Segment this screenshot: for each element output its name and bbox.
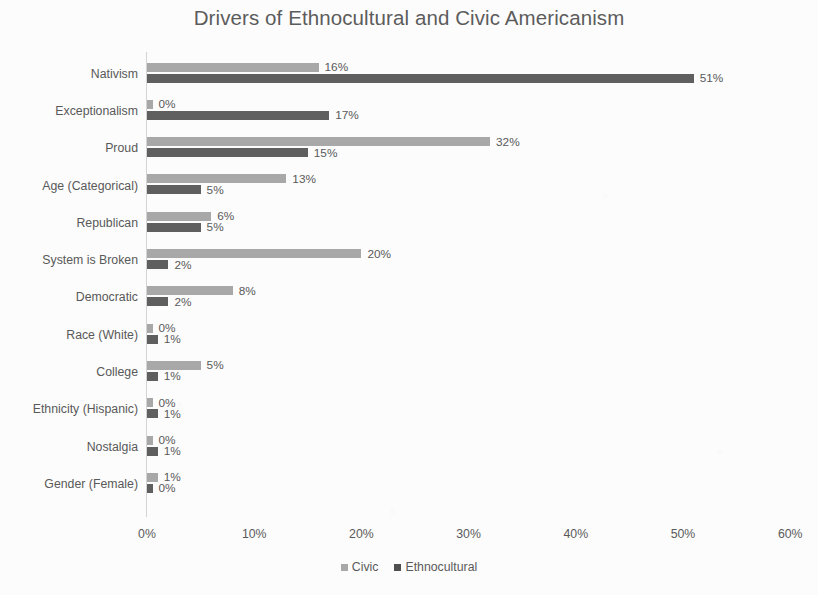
bar-track-civic: 13% (147, 174, 818, 183)
legend-label: Ethnocultural (405, 560, 477, 574)
bar-value-label: 1% (158, 369, 181, 383)
bar-value-label: 20% (361, 247, 391, 261)
bar-value-label: 32% (490, 135, 520, 149)
category-row: System is Broken20%2% (0, 242, 818, 279)
chart-title: Drivers of Ethnocultural and Civic Ameri… (0, 6, 818, 30)
bar-track-civic: 32% (147, 137, 818, 146)
bar-track-civic: 0% (147, 436, 818, 445)
category-label: Republican (76, 216, 138, 230)
x-axis-tick-label: 50% (671, 527, 696, 541)
bar-ethno (147, 447, 158, 456)
x-axis-tick-label: 20% (349, 527, 374, 541)
category-row: Race (White)0%1% (0, 316, 818, 353)
x-axis-tick-label: 40% (563, 527, 588, 541)
bar-ethno (147, 185, 201, 194)
category-row: Democratic8%2% (0, 279, 818, 316)
bar-group: 13%5% (147, 167, 818, 204)
bar-track-ethno: 2% (147, 260, 818, 269)
bar-civic (147, 63, 319, 72)
x-axis-tick-label: 60% (778, 527, 803, 541)
bar-value-label: 1% (158, 332, 181, 346)
bar-group: 32%15% (147, 130, 818, 167)
bar-track-ethno: 1% (147, 447, 818, 456)
bar-group: 20%2% (147, 242, 818, 279)
x-axis: 0%10%20%30%40%50%60% (0, 517, 818, 547)
category-label: Ethnicity (Hispanic) (33, 402, 138, 416)
category-row: Republican6%5% (0, 204, 818, 241)
bar-track-ethno: 1% (147, 372, 818, 381)
bar-group: 0%1% (147, 316, 818, 353)
bar-value-label: 8% (233, 284, 256, 298)
legend-swatch-ethno-icon (394, 564, 401, 571)
plot-area: Nativism16%51%Exceptionalism0%17%Proud32… (0, 52, 818, 517)
category-row: Gender (Female)1%0% (0, 465, 818, 502)
bar-value-label: 1% (158, 407, 181, 421)
legend-entry-ethno[interactable]: Ethnocultural (394, 560, 477, 574)
bar-ethno (147, 74, 694, 83)
bar-track-ethno: 1% (147, 409, 818, 418)
bar-value-label: 5% (201, 358, 224, 372)
category-row: Exceptionalism0%17% (0, 92, 818, 129)
category-label: Nostalgia (87, 440, 138, 454)
category-label: Exceptionalism (55, 104, 138, 118)
bar-ethno (147, 335, 158, 344)
bar-group: 0%1% (147, 428, 818, 465)
x-axis-tick-label: 0% (138, 527, 156, 541)
bar-ethno (147, 148, 308, 157)
bar-ethno (147, 297, 168, 306)
bar-group: 16%51% (147, 55, 818, 92)
x-axis-tick-label: 30% (456, 527, 481, 541)
bar-track-ethno: 15% (147, 148, 818, 157)
category-label: Gender (Female) (44, 477, 138, 491)
bar-track-civic: 20% (147, 249, 818, 258)
bar-value-label: 2% (168, 258, 191, 272)
category-row: Age (Categorical)13%5% (0, 167, 818, 204)
bar-ethno (147, 409, 158, 418)
bar-value-label: 2% (168, 295, 191, 309)
x-axis-tick-label: 10% (242, 527, 267, 541)
bar-track-ethno: 1% (147, 335, 818, 344)
bar-track-civic: 5% (147, 361, 818, 370)
legend-label: Civic (352, 560, 379, 574)
category-label: Age (Categorical) (42, 179, 138, 193)
bar-track-ethno: 17% (147, 111, 818, 120)
category-row: Nativism16%51% (0, 55, 818, 92)
bar-track-ethno: 51% (147, 74, 818, 83)
bar-ethno (147, 372, 158, 381)
bar-group: 5%1% (147, 353, 818, 390)
bar-track-ethno: 0% (147, 484, 818, 493)
bar-track-ethno: 5% (147, 223, 818, 232)
legend-entry-civic[interactable]: Civic (341, 560, 379, 574)
bar-group: 1%0% (147, 465, 818, 502)
category-label: Race (White) (66, 328, 138, 342)
bar-track-ethno: 5% (147, 185, 818, 194)
bar-group: 0%1% (147, 391, 818, 428)
bar-value-label: 5% (201, 220, 224, 234)
category-label: System is Broken (42, 253, 138, 267)
bar-track-civic: 0% (147, 100, 818, 109)
category-label: Proud (105, 141, 138, 155)
bar-value-label: 1% (158, 444, 181, 458)
bar-value-label: 16% (319, 60, 349, 74)
category-row: Nostalgia0%1% (0, 428, 818, 465)
bar-group: 8%2% (147, 279, 818, 316)
bar-group: 0%17% (147, 92, 818, 129)
category-label: Nativism (91, 67, 138, 81)
bar-value-label: 5% (201, 183, 224, 197)
category-row: Ethnicity (Hispanic)0%1% (0, 391, 818, 428)
bar-ethno (147, 223, 201, 232)
bar-group: 6%5% (147, 204, 818, 241)
bar-ethno (147, 111, 329, 120)
bar-chart: Drivers of Ethnocultural and Civic Ameri… (0, 0, 818, 595)
category-row: Proud32%15% (0, 130, 818, 167)
bar-track-civic: 1% (147, 473, 818, 482)
category-label: College (96, 365, 138, 379)
bar-track-ethno: 2% (147, 297, 818, 306)
bar-value-label: 0% (153, 481, 176, 495)
bar-value-label: 0% (153, 97, 176, 111)
category-row: College5%1% (0, 353, 818, 390)
bar-value-label: 51% (694, 71, 724, 85)
category-label: Democratic (76, 290, 138, 304)
bar-value-label: 15% (308, 146, 338, 160)
bar-track-civic: 0% (147, 324, 818, 333)
